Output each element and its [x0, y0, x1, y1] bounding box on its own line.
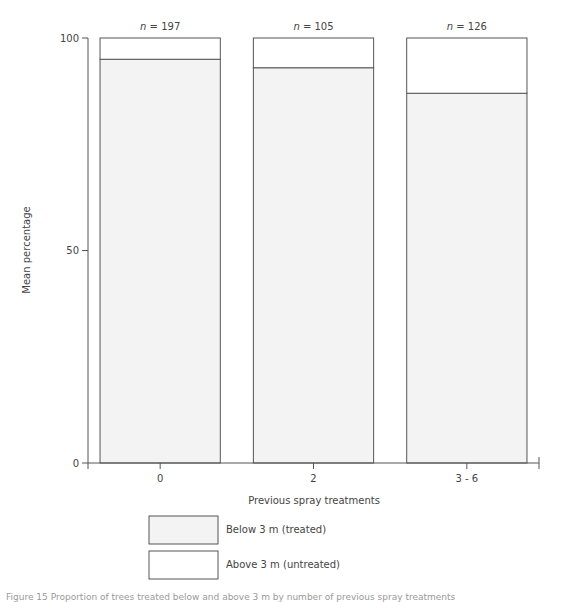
legend-swatch-above-3m — [149, 551, 218, 579]
legend: Below 3 m (treated)Above 3 m (untreated) — [149, 516, 340, 579]
legend-swatch-below-3m — [149, 516, 218, 544]
x-tick-label: 0 — [157, 473, 163, 484]
y-tick-label: 100 — [60, 33, 79, 44]
bars-group — [100, 38, 527, 463]
figure-caption: Figure 15 Proportion of trees treated be… — [6, 592, 556, 602]
bar-below-3m-2 — [407, 93, 527, 463]
legend-label-below-3m: Below 3 m (treated) — [226, 524, 326, 535]
y-axis-title: Mean percentage — [21, 206, 32, 293]
bar-above-3m-0 — [100, 38, 220, 59]
bar-below-3m-1 — [253, 68, 373, 463]
bar-above-3m-2 — [407, 38, 527, 93]
x-axis-title: Previous spray treatments — [248, 495, 380, 506]
legend-label-above-3m: Above 3 m (untreated) — [226, 559, 340, 570]
x-tick-label: 2 — [310, 473, 316, 484]
sample-size-label: n = 197 — [140, 21, 180, 32]
x-ticks-group: 023 - 6 — [157, 463, 478, 484]
sample-size-label: n = 126 — [447, 21, 487, 32]
y-tick-label: 0 — [73, 458, 79, 469]
bar-above-3m-1 — [253, 38, 373, 68]
x-tick-label: 3 - 6 — [455, 473, 478, 484]
y-tick-label: 50 — [66, 245, 79, 256]
sample-size-label: n = 105 — [293, 21, 333, 32]
sample-size-labels: n = 197n = 105n = 126 — [140, 21, 487, 32]
y-ticks-group: 050100 — [60, 33, 88, 469]
bar-below-3m-0 — [100, 59, 220, 463]
